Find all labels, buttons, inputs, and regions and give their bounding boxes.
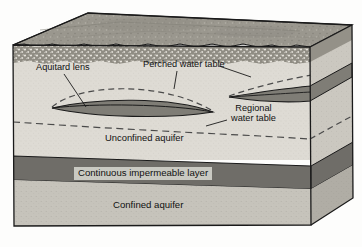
- label-continuous-impermeable-layer: Continuous impermeable layer: [74, 167, 212, 180]
- label-unconfined-aquifer: Unconfined aquifer: [105, 133, 184, 143]
- label-perched-water-table: Perched water table: [143, 60, 225, 70]
- label-confined-aquifer: Confined aquifer: [113, 200, 183, 210]
- label-regional-water-table-line2: water table: [231, 113, 276, 123]
- label-aquitard-lens: Aquitard lens: [36, 63, 90, 73]
- label-regional-water-table: Regional water table: [231, 103, 276, 124]
- label-regional-water-table-line1: Regional: [231, 103, 276, 113]
- ground-surface: [13, 13, 352, 48]
- aquifer-block-diagram: Aquitard lens Perched water table Region…: [0, 0, 362, 247]
